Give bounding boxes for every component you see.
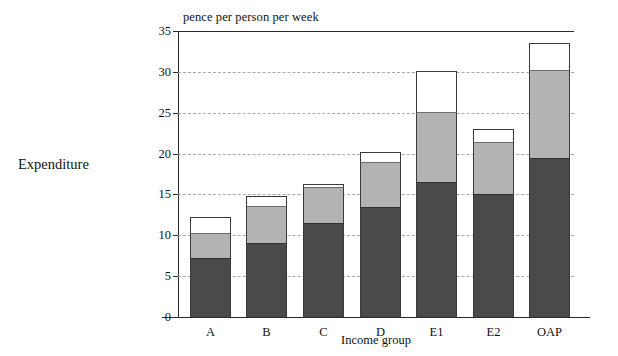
bar-segment-E2-2 (473, 129, 514, 142)
bar-segment-OAP-0 (529, 158, 570, 317)
y-tick-label: 10 (159, 229, 172, 242)
y-tick-mark (173, 194, 178, 195)
bar-D[interactable] (360, 152, 401, 317)
y-tick-label: 30 (159, 66, 172, 79)
bar-segment-A-0 (190, 258, 231, 317)
y-tick-mark (173, 317, 178, 318)
y-axis-title: Expenditure (18, 156, 89, 173)
bar-segment-E1-1 (416, 112, 457, 182)
y-axis-line (178, 31, 179, 318)
bar-C[interactable] (303, 184, 344, 317)
y-tick-label: 0 (165, 311, 171, 324)
bar-segment-D-0 (360, 207, 401, 317)
bar-OAP[interactable] (529, 43, 570, 317)
y-tick-label: 5 (165, 270, 171, 283)
bar-segment-A-1 (190, 233, 231, 258)
bar-segment-D-1 (360, 162, 401, 207)
y-axis-unit-label: pence per person per week (183, 10, 319, 25)
y-tick-mark (173, 31, 178, 32)
bar-E2[interactable] (473, 129, 514, 317)
gridline (178, 72, 574, 73)
bar-segment-B-0 (246, 243, 287, 317)
bar-segment-E2-1 (473, 142, 514, 193)
bar-segment-B-2 (246, 196, 287, 206)
stacked-bar-chart: Expenditure pence per person per week 05… (0, 0, 618, 356)
bar-segment-OAP-1 (529, 70, 570, 157)
y-tick-mark (173, 72, 178, 73)
bar-segment-C-1 (303, 187, 344, 223)
y-tick-mark (173, 276, 178, 277)
bar-segment-OAP-2 (529, 43, 570, 70)
bar-segment-E2-0 (473, 194, 514, 317)
bar-B[interactable] (246, 196, 287, 317)
bar-segment-D-2 (360, 152, 401, 162)
y-tick-mark (173, 113, 178, 114)
y-tick-mark (173, 235, 178, 236)
plot-area: 05101520253035 ABCDE1E2OAP (178, 31, 574, 318)
y-tick-label: 25 (159, 106, 172, 119)
bar-E1[interactable] (416, 71, 457, 317)
bar-A[interactable] (190, 217, 231, 317)
y-tick-label: 15 (159, 188, 172, 201)
bar-segment-C-0 (303, 223, 344, 317)
gridline (178, 113, 574, 114)
bar-segment-E1-0 (416, 182, 457, 317)
x-axis-line (162, 317, 590, 318)
x-axis-title: Income group (178, 333, 574, 348)
bar-segment-A-2 (190, 217, 231, 233)
y-tick-label: 20 (159, 147, 172, 160)
y-tick-label: 35 (159, 25, 172, 38)
bar-segment-B-1 (246, 206, 287, 244)
bar-segment-E1-2 (416, 71, 457, 112)
plot-top-border (178, 31, 574, 32)
y-tick-mark (173, 154, 178, 155)
